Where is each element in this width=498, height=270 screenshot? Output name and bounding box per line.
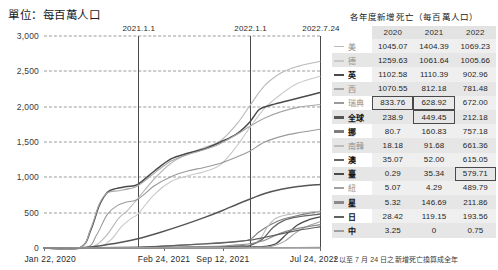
row-label-德: 德	[346, 53, 372, 67]
series-swatch-瑞典	[332, 96, 346, 110]
cell-日-2021: 119.15	[413, 209, 454, 223]
series-swatch-挪	[332, 124, 346, 138]
table-row: 西1070.55812.18781.48	[332, 82, 496, 96]
vertical-marker-label-0: 2021.1.1	[122, 24, 155, 33]
cell-南韓-2021: 91.68	[413, 138, 454, 152]
table-header-2022: 2022	[455, 26, 496, 39]
table-row: 美1045.071404.391069.23	[332, 39, 496, 53]
table-row: 挪80.7160.83757.18	[332, 124, 496, 138]
cell-日-2020: 28.42	[372, 209, 413, 223]
table-title: 各年度新增死亡（每百萬人口）	[330, 10, 498, 22]
cell-中-2022: 0.75	[455, 223, 496, 237]
x-tick-label-0: Jan 22, 2020	[24, 254, 76, 264]
cell-星-2022: 211.86	[455, 195, 496, 209]
cell-中-2021: 0	[413, 223, 454, 237]
cell-澳-2021: 52.00	[413, 153, 454, 167]
y-tick-label-3000: 3,000	[17, 31, 39, 41]
row-label-日: 日	[346, 209, 372, 223]
y-tick-label-2000: 2,000	[17, 102, 39, 112]
series-swatch-臺	[332, 167, 346, 181]
legend-table-panel: 各年度新增死亡（每百萬人口） 2020 2021 2022 美1045.0714…	[330, 0, 498, 270]
table-footnote: * 以至 7 月 24 日之新增死亡換算成全年	[334, 254, 498, 264]
cell-中-2020: 3.25	[372, 223, 413, 237]
row-label-瑞典: 瑞典	[346, 96, 372, 110]
cell-德-2020: 1259.63	[372, 53, 413, 67]
cell-挪-2020: 80.7	[372, 124, 413, 138]
cell-南韓-2020: 18.18	[372, 138, 413, 152]
series-swatch-日	[332, 209, 346, 223]
table-row: 全球238.9449.45212.18	[332, 110, 496, 124]
cell-美-2022: 1069.23	[455, 39, 496, 53]
series-line-全球	[44, 184, 320, 248]
table-row: 南韓18.1891.68661.36	[332, 138, 496, 152]
cell-英-2020: 1102.58	[372, 67, 413, 81]
cell-澳-2020: 35.07	[372, 153, 413, 167]
series-swatch-美	[332, 39, 346, 53]
cell-南韓-2022: 661.36	[455, 138, 496, 152]
cell-澳-2022: 615.05	[455, 153, 496, 167]
cell-紐-2021: 4.29	[413, 181, 454, 195]
row-label-澳: 澳	[346, 153, 372, 167]
y-tick-label-2500: 2,500	[17, 66, 39, 76]
cell-瑞典-2022: 672.00	[455, 96, 496, 110]
cell-英-2021: 1110.39	[413, 67, 454, 81]
table-row: 瑞典833.76628.92672.00	[332, 96, 496, 110]
series-swatch-西	[332, 82, 346, 96]
series-line-瑞典	[44, 129, 320, 249]
swatch-line-icon	[334, 60, 344, 62]
series-swatch-德	[332, 53, 346, 67]
series-swatch-中	[332, 223, 346, 237]
swatch-line-icon	[334, 74, 344, 76]
cell-日-2022: 193.56	[455, 209, 496, 223]
cell-德-2022: 1005.66	[455, 53, 496, 67]
chart-panel: 單位：每百萬人口 05001,0001,5002,0002,5003,000 2…	[0, 0, 330, 270]
chart-plot-area: 05001,0001,5002,0002,5003,000 2021.1.120…	[44, 36, 320, 248]
cell-星-2020: 5.32	[372, 195, 413, 209]
chart-series-lines	[44, 36, 320, 248]
y-tick-label-1500: 1,500	[17, 137, 39, 147]
row-label-全球: 全球	[346, 110, 372, 124]
swatch-line-icon	[334, 46, 344, 48]
cell-挪-2021: 160.83	[413, 124, 454, 138]
swatch-line-icon	[334, 187, 344, 189]
cell-紐-2022: 489.79	[455, 181, 496, 195]
cell-臺-2022: 579.71	[455, 167, 496, 181]
row-label-中: 中	[346, 223, 372, 237]
cell-西-2020: 1070.55	[372, 82, 413, 96]
x-tick-label-1: Feb 24, 2021	[138, 254, 191, 264]
swatch-line-icon	[334, 145, 344, 147]
y-tick-label-1000: 1,000	[17, 172, 39, 182]
cell-星-2021: 146.69	[413, 195, 454, 209]
row-label-星: 星	[346, 195, 372, 209]
series-swatch-星	[332, 195, 346, 209]
cell-西-2021: 812.18	[413, 82, 454, 96]
series-line-中	[44, 247, 320, 248]
x-tick-mark-2	[223, 248, 224, 251]
table-body: 美1045.071404.391069.23德1259.631061.64100…	[332, 39, 496, 238]
table-row: 日28.42119.15193.56	[332, 209, 496, 223]
table-row: 紐5.074.29489.79	[332, 181, 496, 195]
cell-全球-2022: 212.18	[455, 110, 496, 124]
swatch-line-icon	[334, 159, 344, 161]
cell-瑞典-2021: 628.92	[413, 96, 454, 110]
table-header-swatch	[332, 26, 346, 39]
x-tick-mark-3	[320, 248, 321, 251]
cell-西-2022: 781.48	[455, 82, 496, 96]
cell-德-2021: 1061.64	[413, 53, 454, 67]
row-label-西: 西	[346, 82, 372, 96]
cell-全球-2021: 449.45	[413, 110, 454, 124]
series-swatch-澳	[332, 153, 346, 167]
series-swatch-紐	[332, 181, 346, 195]
table-header-row: 2020 2021 2022	[332, 26, 496, 39]
chart-unit-label: 單位：每百萬人口	[8, 6, 100, 22]
row-label-挪: 挪	[346, 124, 372, 138]
mortality-table: 2020 2021 2022 美1045.071404.391069.23德12…	[332, 26, 496, 238]
cell-英-2022: 902.96	[455, 67, 496, 81]
table-header-2020: 2020	[372, 26, 413, 39]
table-row: 臺0.2935.34579.71	[332, 167, 496, 181]
swatch-line-icon	[334, 230, 344, 232]
row-label-紐: 紐	[346, 181, 372, 195]
swatch-line-icon	[334, 173, 344, 175]
y-tick-label-500: 500	[24, 208, 39, 218]
cell-瑞典-2020: 833.76	[372, 96, 413, 110]
